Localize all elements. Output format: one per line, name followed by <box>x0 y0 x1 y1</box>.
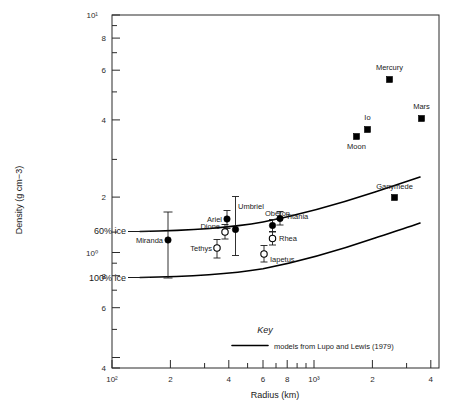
data-point-moon <box>354 134 360 140</box>
series-saturnian-satellites: Dione Tethys Rhea <box>190 222 297 264</box>
y-tick-label: 4 <box>102 116 107 125</box>
ice-100-label: 100% ice <box>89 273 126 283</box>
x-tick-label: 2 <box>370 375 375 384</box>
data-point-mars <box>419 116 425 122</box>
data-point-titania <box>277 215 283 221</box>
legend: Key models from Lupo and Lewis (1979) <box>232 325 394 351</box>
legend-title: Key <box>257 325 273 335</box>
x-axis-tick-labels: 10² 2 4 6 8 10³ 2 4 <box>106 375 433 384</box>
x-tick-label: 6 <box>261 375 266 384</box>
data-point-ariel <box>224 216 230 222</box>
y-tick-label: 4 <box>102 364 107 373</box>
y-axis-tick-labels: 10¹ 8 6 4 2 10⁰ 8 6 4 <box>86 11 106 373</box>
data-point-tethys <box>214 245 220 251</box>
density-radius-scatter-chart: 10¹ 8 6 4 2 10⁰ 8 6 4 <box>0 0 453 408</box>
data-label-mercury: Mercury <box>376 63 403 72</box>
legend-entry-label: models from Lupo and Lewis (1979) <box>274 342 394 351</box>
y-axis-ticks <box>112 15 120 368</box>
data-label-titania: Titania <box>286 212 309 221</box>
data-point-io <box>365 127 371 133</box>
x-tick-label: 4 <box>227 375 232 384</box>
data-label-tethys: Tethys <box>190 244 212 253</box>
data-label-mars: Mars <box>413 102 430 111</box>
data-point-iapetus <box>261 251 267 257</box>
data-label-ganymede: Ganymede <box>376 182 413 191</box>
x-tick-label: 10³ <box>308 375 320 384</box>
ice-annotations: 60% ice 100% ice <box>89 226 150 283</box>
x-axis-title: Radius (km) <box>251 390 300 400</box>
y-tick-label: 6 <box>102 304 107 313</box>
data-point-rhea <box>269 235 275 241</box>
ice-60-label: 60% ice <box>94 226 126 236</box>
x-tick-label: 4 <box>429 375 434 384</box>
series-planets: Mercury Mars Io Moon Ganymede <box>347 63 430 201</box>
data-point-umbriel <box>232 226 238 232</box>
y-tick-label: 2 <box>102 193 107 202</box>
x-tick-label: 10² <box>106 375 118 384</box>
data-label-moon: Moon <box>347 142 366 151</box>
data-point-miranda <box>165 237 171 243</box>
data-point-ganymede <box>392 195 398 201</box>
y-tick-label: 8 <box>102 34 107 43</box>
figure-container: 10¹ 8 6 4 2 10⁰ 8 6 4 <box>0 0 453 408</box>
y-tick-label: 10¹ <box>86 11 98 20</box>
data-label-rhea: Rhea <box>279 234 298 243</box>
errorbar-miranda <box>164 212 173 278</box>
data-label-iapetus: Iapetus <box>270 255 295 264</box>
data-point-mercury <box>387 77 393 83</box>
y-axis-title: Density (g cm−3) <box>14 166 24 234</box>
model-curve-100-ice <box>140 223 420 278</box>
data-point-oberon <box>269 222 275 228</box>
y-tick-label: 10⁰ <box>86 249 98 258</box>
data-point-dione <box>222 229 228 235</box>
data-label-dione: Dione <box>200 222 220 231</box>
x-tick-label: 8 <box>285 375 290 384</box>
y-tick-label: 6 <box>102 66 107 75</box>
x-tick-label: 2 <box>168 375 173 384</box>
data-label-umbriel: Umbriel <box>238 202 264 211</box>
data-label-miranda: Miranda <box>136 236 164 245</box>
x-axis-ticks <box>112 360 431 368</box>
data-label-io: Io <box>364 113 370 122</box>
